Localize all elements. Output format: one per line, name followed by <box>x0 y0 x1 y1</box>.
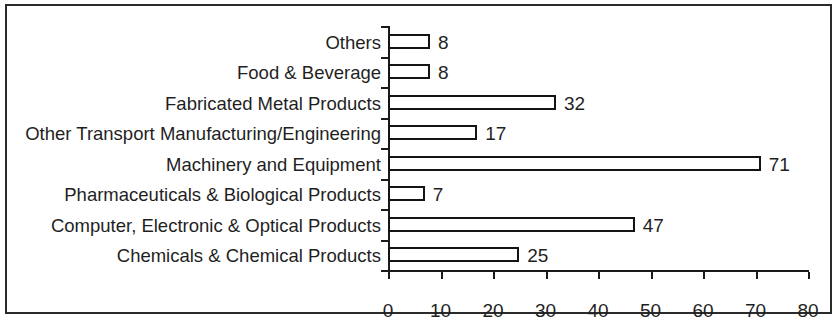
category-axis-tick <box>381 209 388 211</box>
bar <box>388 217 635 232</box>
bar <box>388 64 430 79</box>
value-axis-tick-label: 20 <box>482 300 503 322</box>
category-label: Other Transport Manufacturing/Engineerin… <box>25 126 381 141</box>
bar-value-label: 8 <box>438 65 449 80</box>
value-axis-tick-label: 10 <box>430 300 451 322</box>
value-axis-tick-label: 70 <box>745 300 766 322</box>
category-axis-tick <box>381 270 388 272</box>
value-axis-tick <box>703 272 705 279</box>
bar-value-label: 17 <box>485 126 506 141</box>
value-axis-tick <box>441 272 443 279</box>
bar-value-label: 47 <box>643 218 664 233</box>
bar <box>388 95 556 110</box>
bar <box>388 34 430 49</box>
value-axis-tick <box>388 272 390 279</box>
value-axis-tick <box>598 272 600 279</box>
category-axis-tick <box>381 240 388 242</box>
value-axis-tick <box>493 272 495 279</box>
plot-area: 8832177174725 01020304050607080 <box>388 26 808 270</box>
value-axis-tick-label: 80 <box>797 300 818 322</box>
category-label: Chemicals & Chemical Products <box>117 248 381 263</box>
category-label: Computer, Electronic & Optical Products <box>51 218 381 233</box>
chart-figure: Others Food & Beverage Fabricated Metal … <box>0 0 834 323</box>
bar-value-label: 7 <box>433 187 444 202</box>
category-label: Pharmaceuticals & Biological Products <box>64 187 381 202</box>
value-axis-tick <box>808 272 810 279</box>
bar <box>388 125 477 140</box>
category-label: Fabricated Metal Products <box>165 96 381 111</box>
category-axis-tick <box>381 118 388 120</box>
bar-value-label: 71 <box>769 157 790 172</box>
bar-value-label: 8 <box>438 35 449 50</box>
category-label: Others <box>325 35 381 50</box>
value-axis-tick <box>756 272 758 279</box>
category-axis-tick <box>381 87 388 89</box>
value-axis-tick <box>651 272 653 279</box>
value-axis-tick-label: 60 <box>692 300 713 322</box>
bar <box>388 156 761 171</box>
category-label: Machinery and Equipment <box>166 157 381 172</box>
value-axis-tick-label: 30 <box>535 300 556 322</box>
value-axis-tick-label: 0 <box>383 300 394 322</box>
category-axis-line <box>388 26 390 270</box>
category-axis-labels: Others Food & Beverage Fabricated Metal … <box>10 26 381 270</box>
value-axis-tick-label: 50 <box>640 300 661 322</box>
bar-value-label: 25 <box>527 248 548 263</box>
category-axis-tick <box>381 179 388 181</box>
category-axis-tick <box>381 26 388 28</box>
category-label: Food & Beverage <box>237 65 381 80</box>
bar <box>388 247 519 262</box>
category-axis-tick <box>381 148 388 150</box>
value-axis-tick-label: 40 <box>587 300 608 322</box>
bar <box>388 186 425 201</box>
bar-value-label: 32 <box>564 96 585 111</box>
category-axis-tick <box>381 57 388 59</box>
value-axis-tick <box>546 272 548 279</box>
